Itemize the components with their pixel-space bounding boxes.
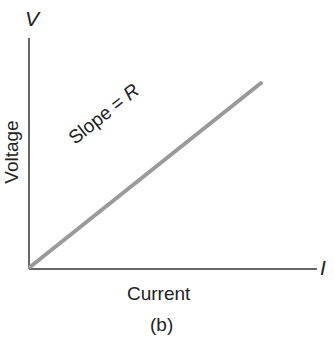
x-axis-symbol: I: [320, 256, 326, 280]
y-axis-symbol: V: [25, 7, 39, 31]
x-axis-label: Current: [127, 283, 190, 305]
y-axis-label: Voltage: [1, 112, 23, 192]
caption: (b): [150, 314, 173, 336]
data-line: [30, 83, 261, 267]
